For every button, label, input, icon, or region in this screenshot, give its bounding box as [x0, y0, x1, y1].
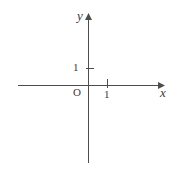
- x-axis-label: x: [160, 86, 166, 99]
- y-axis-arrowhead: [85, 13, 92, 20]
- y-axis-tick-label-1: 1: [73, 62, 79, 73]
- coordinate-plane-figure: y x O 1 1: [0, 0, 176, 175]
- axes-svg: [0, 0, 176, 175]
- y-axis-label: y: [77, 9, 83, 22]
- origin-label: O: [73, 87, 81, 98]
- x-axis-tick-label-1: 1: [104, 89, 110, 100]
